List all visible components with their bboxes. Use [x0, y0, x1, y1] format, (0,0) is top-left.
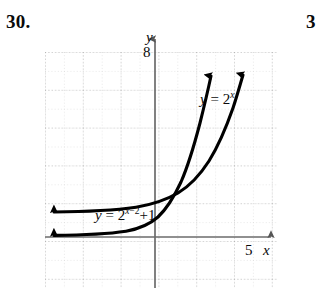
curve2-constant: 1: [148, 207, 156, 223]
x-tick-label-5: 5: [245, 243, 253, 258]
y-axis-label: y: [146, 30, 153, 45]
exercise-figure: 30. 3: [0, 0, 322, 304]
curve2-plus: +: [139, 207, 147, 223]
next-problem-number: 3: [306, 12, 322, 31]
curve2-equals: =: [105, 207, 113, 223]
curve1-exponent: x: [230, 90, 234, 100]
curve1-equals: =: [210, 91, 218, 107]
graph-canvas: [40, 28, 280, 296]
y-tick-label-8: 8: [143, 45, 151, 60]
curve-label-exp-shifted: y = 2x−2+1: [95, 208, 155, 223]
coordinate-plot: y = 2x y = 2x−2+1: [40, 28, 280, 296]
curve2-lhs: y: [95, 207, 102, 223]
curve2-exponent: x−2: [125, 206, 139, 216]
grid-lines: [45, 52, 277, 288]
curve-label-exp-2x: y = 2x: [200, 92, 234, 107]
curve1-lhs: y: [200, 91, 207, 107]
x-axis-label: x: [263, 243, 270, 258]
problem-number: 30.: [6, 12, 30, 31]
